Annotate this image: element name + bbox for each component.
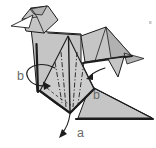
right-wing-lower-flap (108, 57, 124, 77)
origami-diagram: b b a (0, 0, 156, 148)
label-b-right: b (93, 88, 100, 102)
arrow-a-head (59, 129, 67, 138)
label-b-left: b (17, 69, 24, 83)
label-a: a (77, 126, 84, 140)
right-wing-spike (124, 53, 144, 64)
origami-figure-svg: b b a (0, 0, 156, 148)
beak-shape (11, 15, 33, 28)
arrow-a-curve (62, 114, 70, 133)
print-speck (149, 21, 152, 24)
